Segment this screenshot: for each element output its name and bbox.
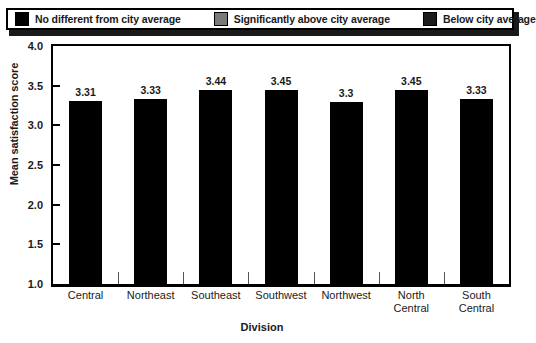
legend-label-below: Below city average <box>443 13 536 25</box>
bar[interactable] <box>460 99 493 284</box>
x-axis-tick-label: Central <box>51 289 121 302</box>
x-axis-tick-label: Northwest <box>311 289 381 302</box>
legend-item-significantly-above[interactable]: Significantly above city average <box>214 10 390 28</box>
bar[interactable] <box>330 102 363 284</box>
y-axis-tick-mark <box>53 204 60 206</box>
bar-value-label: 3.45 <box>381 75 441 87</box>
bar[interactable] <box>199 90 232 284</box>
y-axis-tick-label: 3.0 <box>28 119 43 131</box>
x-axis-tick-mark <box>183 272 184 284</box>
y-axis-tick-label: 1.5 <box>28 238 43 250</box>
legend: No different from city average Significa… <box>6 8 514 30</box>
bar-value-label: 3.44 <box>186 75 246 87</box>
y-axis-tick-label: 1.0 <box>28 278 43 290</box>
legend-item-no-different[interactable]: No different from city average <box>15 10 181 28</box>
x-axis-tick-label: South Central <box>441 289 511 315</box>
y-axis-tick-mark <box>53 124 60 126</box>
y-axis-tick-labels: 4.03.53.02.52.01.51.0 <box>0 44 47 287</box>
legend-label-significantly-above: Significantly above city average <box>234 13 390 25</box>
plot-area: 3.313.333.443.453.33.453.33 <box>51 44 511 287</box>
bar[interactable] <box>395 90 428 284</box>
y-axis-tick-label: 3.5 <box>28 80 43 92</box>
bar-value-label: 3.45 <box>251 75 311 87</box>
legend-item-below[interactable]: Below city average <box>423 10 536 28</box>
legend-swatch-icon-below <box>423 12 437 26</box>
x-axis-tick-mark <box>444 272 445 284</box>
bar[interactable] <box>69 101 102 284</box>
legend-swatch-icon-no-different <box>15 12 29 26</box>
x-axis-tick-label: Northeast <box>116 289 186 302</box>
y-axis-tick-mark <box>53 164 60 166</box>
bar-value-label: 3.31 <box>56 86 116 98</box>
x-axis-tick-mark <box>379 272 380 284</box>
plot-inner: 3.313.333.443.453.33.453.33 <box>53 46 509 284</box>
y-axis-tick-label: 2.0 <box>28 199 43 211</box>
bar-value-label: 3.33 <box>446 84 506 96</box>
x-axis-tick-mark <box>314 272 315 284</box>
bar[interactable] <box>134 99 167 284</box>
legend-swatch-icon-significantly-above <box>214 12 228 26</box>
x-axis-tick-label: Southeast <box>181 289 251 302</box>
bar[interactable] <box>265 90 298 284</box>
y-axis-tick-label: 4.0 <box>28 40 43 52</box>
x-axis-tick-label: Southwest <box>246 289 316 302</box>
bar-value-label: 3.33 <box>121 84 181 96</box>
bar-value-label: 3.3 <box>316 87 376 99</box>
y-axis-tick-mark <box>53 243 60 245</box>
legend-label-no-different: No different from city average <box>35 13 181 25</box>
x-axis-tick-label: North Central <box>376 289 446 315</box>
x-axis-tick-mark <box>248 272 249 284</box>
x-axis-tick-mark <box>118 272 119 284</box>
y-axis-tick-label: 2.5 <box>28 159 43 171</box>
x-axis-title: Division <box>0 321 524 333</box>
